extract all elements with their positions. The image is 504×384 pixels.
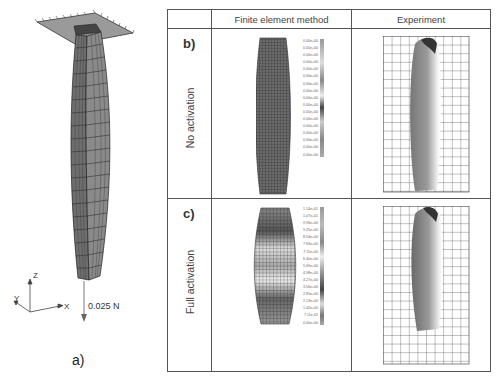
- experiment-photo-full-activation: [383, 206, 471, 366]
- fe-model-3d-panel: Z X Y 0.025 N a): [0, 0, 165, 384]
- legend-values-full-activation: 1.14e+011.07e+01 9.96e+009.25e+00 8.54e+…: [296, 206, 318, 327]
- column-divider-2: [351, 10, 352, 371]
- column-divider-1: [211, 10, 212, 371]
- header-experiment: Experiment: [352, 10, 490, 29]
- z-axis-label: Z: [33, 271, 38, 280]
- panel-a-label: a): [72, 352, 84, 368]
- panel-c-label: c): [183, 206, 195, 221]
- force-label: 0.025 N: [88, 301, 120, 311]
- legend-values-no-activation: 0.00e+000.00e+00 0.00e+000.00e+00 0.00e+…: [296, 38, 318, 159]
- x-axis-label: X: [64, 302, 69, 311]
- legend-colorbar-full-activation: [320, 207, 324, 325]
- row-divider: [168, 198, 490, 199]
- fem-result-no-activation: [256, 36, 296, 196]
- fe-model-3d-drawing: [0, 0, 165, 384]
- fem-result-full-activation: [252, 206, 298, 326]
- header-fem: Finite element method: [212, 10, 351, 29]
- legend-colorbar-no-activation: [320, 39, 324, 157]
- y-axis-label: Y: [14, 294, 19, 303]
- comparison-table: Finite element method Experiment b) No a…: [167, 9, 491, 372]
- row-title-no-activation: No activation: [184, 68, 196, 168]
- panel-b-label: b): [183, 36, 195, 51]
- experiment-photo-no-activation: [383, 36, 471, 194]
- row-title-full-activation: Full activation: [184, 232, 196, 332]
